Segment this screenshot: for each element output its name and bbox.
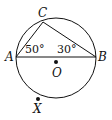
center-point-o (54, 60, 58, 64)
label-c: C (38, 6, 47, 20)
label-o: O (52, 66, 62, 80)
label-a: A (4, 50, 14, 64)
angle-cba-label: 30° (57, 43, 77, 56)
label-b: B (97, 50, 107, 64)
circle-diagram: A B C O X 50° 30° (0, 0, 112, 120)
point-x (36, 97, 40, 101)
label-x: X (32, 102, 42, 116)
angle-cab-label: 50° (25, 43, 45, 56)
